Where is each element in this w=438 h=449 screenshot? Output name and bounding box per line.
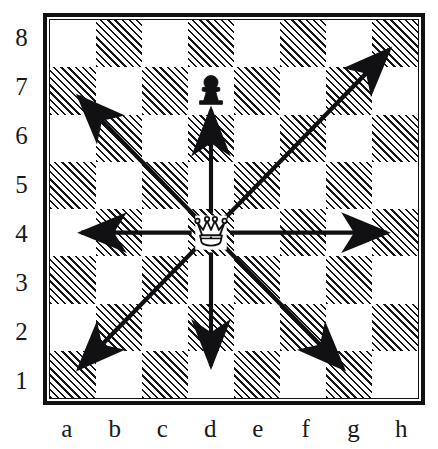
square-e3[interactable] [234,256,280,303]
square-g1[interactable] [326,351,372,398]
square-a7[interactable] [50,67,96,114]
file-label-a: a [43,408,91,449]
square-d6[interactable] [188,115,234,162]
square-a1[interactable] [50,351,96,398]
square-h6[interactable] [372,115,418,162]
square-g7[interactable] [326,67,372,114]
square-h8[interactable] [372,20,418,67]
square-h2[interactable] [372,304,418,351]
file-label-h: h [377,408,425,449]
square-d5[interactable] [188,162,234,209]
square-g5[interactable] [326,162,372,209]
square-d2[interactable] [188,304,234,351]
chess-diagram: 87654321 abcdefgh [0,0,438,449]
square-b5[interactable] [96,162,142,209]
rank-label-5: 5 [0,160,43,209]
square-f4[interactable] [280,209,326,256]
square-e8[interactable] [234,20,280,67]
square-c7[interactable] [142,67,188,114]
chessboard-inner-border [49,19,419,399]
square-c4[interactable] [142,209,188,256]
square-b2[interactable] [96,304,142,351]
file-labels: abcdefgh [43,408,425,449]
square-b1[interactable] [96,351,142,398]
square-g6[interactable] [326,115,372,162]
square-e5[interactable] [234,162,280,209]
square-d4[interactable] [188,209,234,256]
rank-label-6: 6 [0,111,43,160]
square-f2[interactable] [280,304,326,351]
square-e2[interactable] [234,304,280,351]
square-a3[interactable] [50,256,96,303]
file-label-b: b [91,408,139,449]
chessboard-squares [50,20,418,398]
rank-label-2: 2 [0,307,43,356]
square-b3[interactable] [96,256,142,303]
chessboard-frame [43,13,425,405]
square-d8[interactable] [188,20,234,67]
file-label-d: d [186,408,234,449]
square-c3[interactable] [142,256,188,303]
square-h3[interactable] [372,256,418,303]
square-c2[interactable] [142,304,188,351]
square-c1[interactable] [142,351,188,398]
square-f7[interactable] [280,67,326,114]
square-e6[interactable] [234,115,280,162]
square-h1[interactable] [372,351,418,398]
square-e7[interactable] [234,67,280,114]
square-d7[interactable] [188,67,234,114]
rank-label-7: 7 [0,62,43,111]
square-b4[interactable] [96,209,142,256]
square-f1[interactable] [280,351,326,398]
file-label-e: e [234,408,282,449]
square-c5[interactable] [142,162,188,209]
square-e1[interactable] [234,351,280,398]
square-a6[interactable] [50,115,96,162]
square-e4[interactable] [234,209,280,256]
square-g4[interactable] [326,209,372,256]
square-c6[interactable] [142,115,188,162]
square-b7[interactable] [96,67,142,114]
square-f8[interactable] [280,20,326,67]
square-a2[interactable] [50,304,96,351]
rank-label-8: 8 [0,13,43,62]
square-c8[interactable] [142,20,188,67]
rank-label-1: 1 [0,356,43,405]
square-a4[interactable] [50,209,96,256]
square-f5[interactable] [280,162,326,209]
rank-label-3: 3 [0,258,43,307]
square-d1[interactable] [188,351,234,398]
square-d3[interactable] [188,256,234,303]
square-g2[interactable] [326,304,372,351]
square-h4[interactable] [372,209,418,256]
square-a5[interactable] [50,162,96,209]
file-label-f: f [282,408,330,449]
file-label-g: g [330,408,378,449]
square-b8[interactable] [96,20,142,67]
square-f3[interactable] [280,256,326,303]
rank-labels: 87654321 [0,13,43,405]
square-h5[interactable] [372,162,418,209]
square-g3[interactable] [326,256,372,303]
rank-label-4: 4 [0,209,43,258]
file-label-c: c [139,408,187,449]
square-a8[interactable] [50,20,96,67]
square-h7[interactable] [372,67,418,114]
square-f6[interactable] [280,115,326,162]
square-b6[interactable] [96,115,142,162]
square-g8[interactable] [326,20,372,67]
